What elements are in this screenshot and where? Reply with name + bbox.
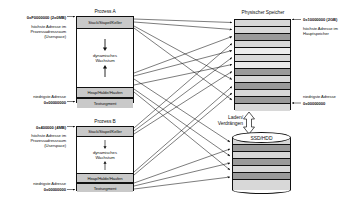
memory-frame: [235, 55, 290, 62]
process-b-segment-stack: Stack/Stapel/Keller: [77, 127, 133, 137]
disk-top-ellipse: SSD/HDD: [232, 132, 291, 143]
process-b-segment-heap: Heap/Halde/Haufen: [77, 173, 133, 183]
map-a-heap-2: [134, 51, 232, 77]
process-b-segment-text-label: Textsegment: [94, 186, 117, 191]
physical-memory-top-address: 0x10000000 (2GB): [303, 17, 353, 22]
map-a-stack-2: [134, 22, 232, 30]
memory-frame: [235, 20, 290, 27]
memory-frame: [235, 41, 290, 48]
process-a-segment-heap-label: Heap/Halde/Haufen: [87, 90, 122, 95]
memory-frame: [235, 90, 290, 97]
physical-memory-bottom-address: 0x00000000: [303, 101, 353, 106]
process-b-segment-growth-label: dynamisches Wachstum: [93, 150, 117, 160]
process-a-segment-stack-label: Stack/Stapel/Keller: [88, 20, 121, 25]
load-evict-arrow: [244, 112, 255, 134]
memory-frame: [235, 34, 290, 41]
map-a-text-1: [134, 65, 232, 86]
process-a-segment-heap: Heap/Halde/Haufen: [77, 87, 133, 98]
memory-frame: [235, 97, 290, 104]
map-a-text-swap-2: [134, 92, 230, 170]
process-a-segment-growth: dynamisches Wachstum: [77, 29, 133, 87]
arrow-down-icon: [101, 39, 109, 51]
map-b-heap-1: [134, 87, 232, 173]
arrow-up-icon: [101, 161, 109, 170]
swap-block: [233, 166, 290, 173]
memory-frame: [235, 76, 290, 83]
map-b-heap-2: [134, 93, 232, 175]
process-a-title: Prozess A: [74, 9, 136, 14]
memory-frame: [235, 83, 290, 90]
diagram-canvas: Prozess A 0xF0000000 (2x0MB) höchste Adr…: [0, 0, 354, 208]
map-a-stack-4: [134, 28, 232, 100]
process-b-title: Prozess B: [74, 119, 136, 124]
process-b-bottom-address: 0x00000000: [4, 187, 66, 192]
swap-block: [233, 159, 290, 166]
map-b-text-swap-1: [134, 149, 230, 183]
swap-storage: SSD/HDD: [232, 132, 291, 198]
map-a-stack-3: [134, 26, 232, 80]
process-a-top-note: höchste Adresse im Prozessadressraum (Us…: [2, 24, 66, 40]
process-a-segment-text: Textsegment: [77, 98, 133, 108]
swap-block: [233, 152, 290, 159]
map-b-text-swap-3: [134, 177, 230, 189]
physical-memory-title: Physischer Speicher: [215, 10, 311, 15]
physical-memory-frames: [234, 19, 291, 110]
memory-frame: [235, 104, 290, 111]
process-b-address-space: Stack/Stapel/Keller dynamisches Wachstum…: [76, 126, 134, 191]
memory-frame: [235, 27, 290, 34]
process-b-top-note: höchste Adresse im Prozessadressraum (Us…: [2, 133, 66, 149]
memory-frame: [235, 48, 290, 55]
process-b-segment-growth: dynamisches Wachstum: [77, 137, 133, 173]
swap-block: [233, 145, 290, 152]
process-b-segment-stack-label: Stack/Stapel/Keller: [88, 129, 121, 134]
map-b-text-swap-2: [134, 163, 230, 186]
process-b-segment-heap-label: Heap/Halde/Haufen: [87, 176, 122, 181]
process-b-top-address: 0x400000 (4MB): [4, 125, 66, 130]
map-a-heap-1: [134, 37, 232, 74]
disk-body: [232, 138, 291, 190]
transfer-label: Laden/ Verdrängen: [189, 114, 243, 127]
process-a-top-address: 0xF0000000 (2x0MB): [4, 15, 66, 20]
swap-block: [233, 180, 290, 190]
map-a-stack-1: [134, 19, 232, 23]
memory-frame: [235, 69, 290, 76]
process-b-segment-text: Textsegment: [77, 183, 133, 192]
process-a-segment-text-label: Textsegment: [94, 101, 117, 106]
arrow-up-icon: [101, 65, 109, 77]
map-a-heap-swap-1: [134, 79, 230, 142]
process-a-segment-stack: Stack/Stapel/Keller: [77, 17, 133, 29]
swap-block: [233, 173, 290, 180]
process-b-bottom-note: niedrigste Adresse: [4, 181, 66, 186]
process-a-segment-growth-label: dynamisches Wachstum: [93, 53, 117, 63]
memory-frame: [235, 62, 290, 69]
process-a-address-space: Stack/Stapel/Keller dynamisches Wachstum…: [76, 16, 134, 103]
physical-memory-bottom-note: niedrigste Adresse: [303, 94, 353, 99]
physical-memory-top-note: höchste Adresse im Hauptspeicher: [303, 26, 353, 36]
swap-storage-title: SSD/HDD: [251, 135, 273, 141]
process-a-bottom-note: niedrigste Adresse: [4, 94, 66, 99]
arrow-down-icon: [101, 140, 109, 149]
process-a-bottom-address: 0x00000000: [4, 100, 66, 105]
